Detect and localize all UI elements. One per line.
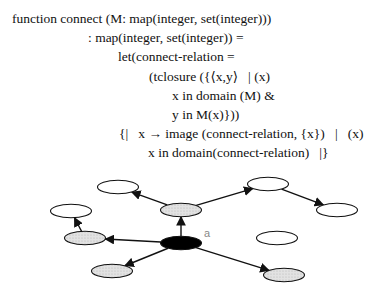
graph-node-left-lower xyxy=(65,231,106,245)
edge-arrow-a-to-left-lower xyxy=(105,239,160,242)
node-label-a: a xyxy=(204,227,211,239)
edge-arrow-top-center-to-top-left xyxy=(132,192,167,205)
graph-node-a xyxy=(161,236,202,250)
edge-arrow-top-right-to-far-right xyxy=(282,189,324,205)
graph-node-top-center xyxy=(161,203,202,217)
edge-arrow-top-center-to-top-right xyxy=(196,189,253,206)
graph-node-left-upper xyxy=(51,204,92,218)
graph-node-bottom-left xyxy=(92,264,133,278)
graph-edges xyxy=(74,189,323,271)
graph-node-mid-right xyxy=(257,231,298,245)
edge-arrow-a-to-bottom-right xyxy=(196,248,269,271)
edge-arrow-a-to-bottom-left xyxy=(125,248,168,265)
graph-node-top-left xyxy=(98,180,139,194)
graph-node-bottom-right xyxy=(264,268,305,282)
edge-arrow-left-lower-to-left-upper xyxy=(74,218,81,232)
connection-graph-diagram: a xyxy=(0,0,387,289)
graph-node-far-right xyxy=(317,203,358,217)
graph-node-top-right xyxy=(248,177,289,191)
